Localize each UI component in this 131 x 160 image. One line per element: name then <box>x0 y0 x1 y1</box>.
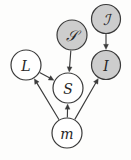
node-script-I: ℐ <box>92 5 121 34</box>
node-circle-shaded <box>57 20 87 50</box>
edge-m-to-S <box>65 104 70 117</box>
edge-scriptS-to-S <box>67 51 72 72</box>
node-circle-unshaded <box>11 50 41 80</box>
edge-scriptI-to-I <box>104 35 109 50</box>
arrow-head-icon <box>67 67 72 72</box>
node-circle-shaded <box>92 5 121 34</box>
node-circle-unshaded <box>52 118 82 148</box>
edge-L-to-S <box>40 73 54 81</box>
node-circle-unshaded <box>53 73 83 103</box>
arrow-head-icon <box>104 44 109 49</box>
arrow-head-icon <box>65 104 70 109</box>
graphical-model-figure: ℐ𝒮LISm <box>0 0 131 160</box>
graph-canvas: ℐ𝒮LISm <box>0 0 131 160</box>
node-I: I <box>92 51 121 80</box>
node-script-S: 𝒮 <box>57 20 87 50</box>
node-L: L <box>11 50 41 80</box>
edge-line <box>70 51 71 67</box>
node-m: m <box>52 118 82 148</box>
node-layer: ℐ𝒮LISm <box>11 5 121 149</box>
node-circle-shaded <box>92 51 121 80</box>
node-S: S <box>53 73 83 103</box>
edge-line <box>40 73 49 78</box>
